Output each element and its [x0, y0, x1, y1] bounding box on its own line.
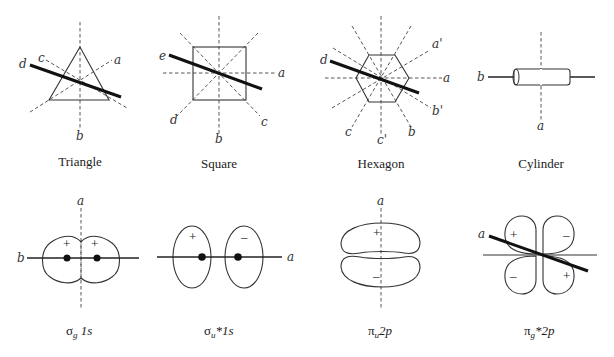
phase-sign: –: [372, 268, 380, 283]
label-b: b: [408, 125, 416, 139]
lobe-bottom: [341, 256, 420, 287]
phase-sign: +: [563, 268, 570, 283]
label-d: d: [170, 113, 178, 127]
square-panel: e a d c b Square: [159, 16, 285, 171]
label-b: b: [76, 129, 84, 143]
nucleus-right: [94, 255, 101, 262]
label-c: c: [261, 115, 268, 129]
phase-sign: +: [63, 236, 70, 251]
label-c: c: [345, 125, 352, 139]
phase-sign: +: [373, 225, 380, 240]
label-a-prime: a': [432, 37, 442, 51]
label-d: d: [320, 53, 328, 67]
triangle-panel: d c a b Triangle: [19, 22, 127, 169]
cylinder-panel: b a Cylinder: [477, 32, 595, 171]
label-c: c: [38, 51, 45, 65]
label-a: a: [114, 53, 121, 67]
nucleus-left: [198, 253, 206, 261]
caption-square: Square: [201, 156, 237, 171]
phase-sign: +: [510, 227, 517, 242]
phase-sign: –: [509, 268, 517, 283]
molecular-axis-d: [30, 65, 121, 97]
label-b: b: [17, 251, 25, 265]
label-a: a: [478, 227, 485, 241]
caption-sigma-u-star-1s: σu*1s: [204, 323, 234, 340]
sigma-u-star-1s-panel: + – a σu*1s: [157, 226, 294, 340]
caption-sigma-g-1s: σg 1s: [66, 323, 92, 340]
label-b-prime: b': [432, 104, 443, 118]
phase-sign: +: [91, 236, 98, 251]
caption-hexagon: Hexagon: [358, 156, 405, 171]
caption-pi-u-2p: πu2p: [368, 323, 393, 340]
label-a: a: [278, 66, 285, 80]
caption-pi-g-star-2p: πg*2p: [524, 323, 555, 340]
label-c-prime: c': [377, 133, 387, 147]
phase-sign: +: [189, 229, 196, 244]
nucleus-left: [64, 255, 71, 262]
label-a: a: [537, 119, 544, 133]
label-e: e: [159, 49, 166, 63]
molecular-axis-e: [169, 55, 262, 89]
caption-triangle: Triangle: [58, 154, 102, 169]
sigma-g-1s-panel: + + a b σg 1s: [17, 194, 139, 340]
label-a: a: [443, 71, 450, 85]
symmetry-diagram: d c a b Triangle e a d c b Square d a' a…: [0, 0, 614, 357]
pi-g-star-2p-panel: + – – + a πg*2p: [478, 216, 597, 340]
nucleus-right: [234, 253, 242, 261]
lobe-top: [341, 223, 420, 254]
phase-sign: –: [562, 227, 570, 242]
label-b: b: [477, 70, 485, 84]
label-b: b: [215, 132, 223, 146]
label-a: a: [377, 194, 384, 208]
label-a: a: [77, 194, 84, 208]
label-d: d: [19, 57, 27, 71]
caption-cylinder: Cylinder: [518, 156, 564, 171]
phase-sign: –: [240, 229, 248, 244]
hexagon-panel: d a' a b' b c c' Hexagon: [320, 16, 450, 171]
pi-u-2p-panel: + – a πu2p: [341, 194, 420, 340]
label-a: a: [287, 250, 294, 264]
